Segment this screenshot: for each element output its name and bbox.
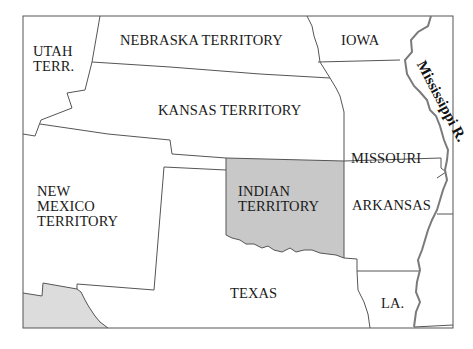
border-kansas-missouri: [330, 78, 344, 161]
border-texas-louisiana: [357, 271, 370, 328]
label-new-mexico-line3: TERRITORY: [37, 214, 118, 229]
border-iowa-missouri: [318, 60, 400, 62]
label-nebraska: NEBRASKA TERRITORY: [120, 33, 283, 48]
label-iowa: IOWA: [341, 33, 379, 48]
label-arkansas-text: ARKANSAS: [352, 197, 431, 213]
border-arkansas-west: [344, 258, 357, 271]
label-kansas: KANSAS TERRITORY: [158, 103, 301, 118]
border-kansas-newmexico: [40, 124, 226, 158]
label-utah-line1: UTAH: [33, 44, 74, 59]
label-texas-text: TEXAS: [230, 285, 277, 301]
label-indian-territory: INDIAN TERRITORY: [238, 184, 319, 214]
label-texas: TEXAS: [230, 286, 277, 301]
label-utah: UTAH TERR.: [33, 44, 74, 74]
label-nebraska-text: NEBRASKA TERRITORY: [120, 32, 283, 48]
border-newmexico-texas: [164, 167, 226, 170]
label-utah-line2: TERR.: [33, 59, 74, 74]
label-kansas-text: KANSAS TERRITORY: [158, 102, 301, 118]
label-iowa-text: IOWA: [341, 32, 379, 48]
region-mexico: [23, 283, 108, 328]
label-new-mexico: NEW MEXICO TERRITORY: [37, 184, 118, 229]
label-louisiana-text: LA.: [381, 295, 404, 311]
label-missouri: MISSOURI: [351, 151, 421, 166]
border-nebraska-iowa: [307, 16, 330, 78]
label-arkansas: ARKANSAS: [352, 198, 431, 213]
label-new-mexico-line2: MEXICO: [37, 199, 118, 214]
label-indian-line2: TERRITORY: [238, 199, 319, 214]
label-indian-line1: INDIAN: [238, 184, 319, 199]
label-new-mexico-line1: NEW: [37, 184, 118, 199]
label-louisiana: LA.: [381, 296, 404, 311]
border-utah-east: [23, 16, 100, 136]
border-nebraska-kansas: [92, 62, 330, 78]
label-missouri-text: MISSOURI: [351, 150, 421, 166]
